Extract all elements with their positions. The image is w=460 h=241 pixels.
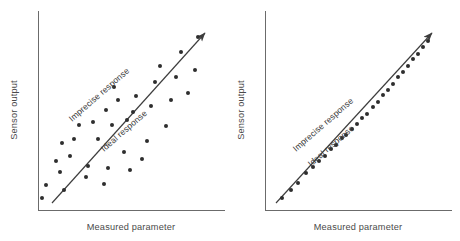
sensor-response-figure: Imprecise response Ideal response Measur… bbox=[0, 0, 460, 241]
right-ideal-response-line bbox=[276, 33, 432, 203]
left-ideal-response-label: Ideal response bbox=[99, 108, 149, 154]
right-panel: Imprecise response Ideal response Measur… bbox=[236, 11, 452, 232]
figure-canvas: Imprecise response Ideal response Measur… bbox=[0, 0, 460, 241]
left-scatter-points bbox=[40, 35, 200, 200]
left-x-axis-label: Measured parameter bbox=[87, 222, 176, 232]
left-panel: Imprecise response Ideal response Measur… bbox=[9, 11, 225, 232]
right-scatter-points bbox=[280, 39, 430, 200]
left-y-axis-label: Sensor output bbox=[9, 80, 19, 140]
right-x-axis-label: Measured parameter bbox=[314, 222, 403, 232]
left-imprecise-response-label: Imprecise response bbox=[67, 66, 132, 124]
right-y-axis-label: Sensor output bbox=[236, 80, 246, 140]
